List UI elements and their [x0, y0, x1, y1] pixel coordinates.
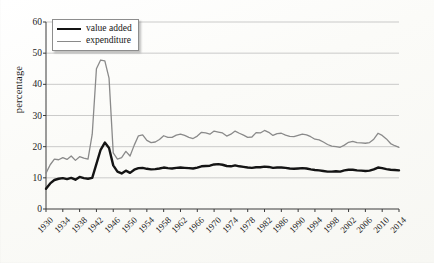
- legend-item-expenditure: expenditure: [57, 35, 132, 47]
- legend-swatch-value-added: [57, 28, 81, 30]
- y-axis-title: percentage: [13, 50, 24, 130]
- chart-legend: value added expenditure: [52, 19, 139, 51]
- legend-label-value-added: value added: [86, 24, 132, 34]
- legend-swatch-expenditure: [57, 41, 81, 42]
- legend-label-expenditure: expenditure: [86, 36, 131, 46]
- legend-item-value-added: value added: [57, 23, 132, 35]
